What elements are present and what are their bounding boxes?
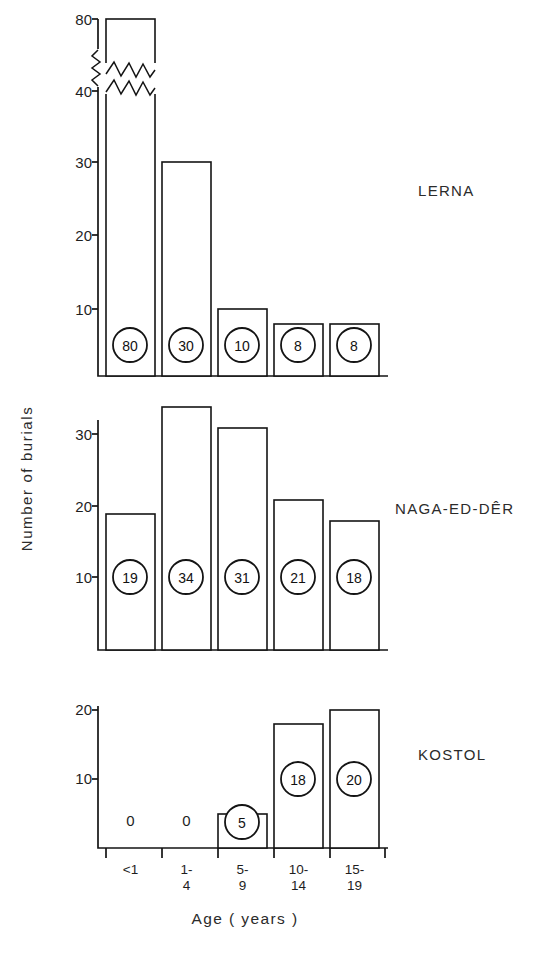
xlabel-cat-4-line2: 19 xyxy=(347,878,362,893)
xlabel-cat-4: 15- 19 xyxy=(330,862,379,893)
value-text: 18 xyxy=(290,772,306,788)
xlabel-cat-2-line2: 9 xyxy=(239,878,247,893)
xlabel-cat-2-line1: 5- xyxy=(236,862,248,877)
value-badge-kostol-5: 20 xyxy=(337,762,371,796)
panel-plot-kostol: 5 18 20 xyxy=(0,0,559,954)
xlabel-cat-3: 10- 14 xyxy=(274,862,323,893)
xlabel-cat-3-line2: 14 xyxy=(291,878,306,893)
xlabel-cat-1-line1: 1- xyxy=(180,862,192,877)
xlabel-cat-4-line1: 15- xyxy=(345,862,365,877)
zero-label-kostol-1: 0 xyxy=(162,812,211,829)
value-text: 20 xyxy=(346,772,362,788)
x-axis-title: Age ( years ) xyxy=(100,910,390,928)
xlabel-cat-1-line2: 4 xyxy=(183,878,191,893)
value-text: 5 xyxy=(238,815,246,831)
xlabel-cat-1: 1- 4 xyxy=(162,862,211,893)
value-badge-kostol-3: 5 xyxy=(225,805,259,839)
xlabel-cat-0-line1: <1 xyxy=(123,862,138,877)
xlabel-cat-3-line1: 10- xyxy=(289,862,309,877)
chart-figure: Number of burials LERNA 80 40 30 20 10 xyxy=(0,0,559,954)
xlabel-cat-0: <1 xyxy=(106,862,155,878)
value-badge-kostol-4: 18 xyxy=(281,762,315,796)
xlabel-cat-2: 5- 9 xyxy=(218,862,267,893)
zero-label-kostol-0: 0 xyxy=(106,812,155,829)
